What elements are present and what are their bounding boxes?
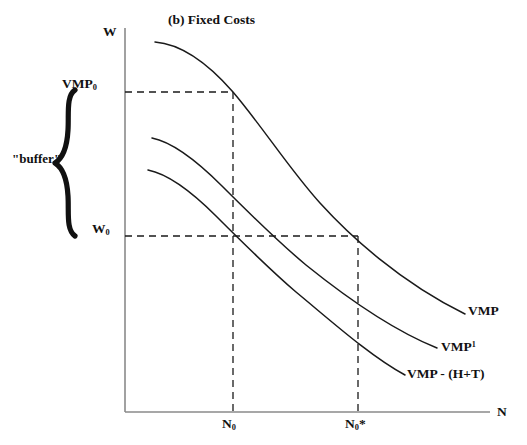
y-tick-vmp0-sub: 0 bbox=[93, 83, 97, 92]
curve-label-vmp-minus-ht: VMP - (H+T) bbox=[407, 367, 484, 381]
x-tick-n0-sub: 0 bbox=[232, 423, 236, 432]
x-tick-n0star-suffix: * bbox=[359, 416, 366, 431]
x-tick-n0-main: N bbox=[222, 416, 232, 431]
y-tick-w0-main: W bbox=[92, 221, 106, 236]
x-tick-label-n0-star: N0* bbox=[345, 417, 366, 431]
curve-vmp-minus-ht bbox=[148, 170, 405, 375]
y-tick-w0-sub: 0 bbox=[106, 228, 110, 237]
curve-label-vmp-prime: VMP1 bbox=[441, 340, 476, 354]
economics-figure: (b) Fixed Costs W N VMP0 W0 N0 N0* "buff… bbox=[0, 0, 527, 445]
y-tick-vmp0-main: VMP bbox=[62, 76, 93, 91]
x-tick-label-n0: N0 bbox=[222, 417, 236, 431]
buffer-annotation-label: "buffer" bbox=[12, 152, 61, 165]
curve-vmp-prime bbox=[152, 138, 437, 348]
x-tick-n0star-sub: 0 bbox=[355, 423, 359, 432]
curve-vmp bbox=[155, 42, 465, 314]
x-tick-n0star-main: N bbox=[345, 416, 355, 431]
chart-title: (b) Fixed Costs bbox=[168, 13, 255, 27]
y-tick-label-vmp0: VMP0 bbox=[62, 77, 97, 91]
curve-label-vmp: VMP bbox=[468, 304, 499, 318]
x-axis-label: N bbox=[497, 405, 507, 419]
curve-label-vmp-prime-sup: 1 bbox=[472, 340, 476, 349]
curve-label-vmp-prime-main: VMP bbox=[441, 339, 472, 354]
y-tick-label-w0: W0 bbox=[92, 222, 110, 236]
y-axis-label: W bbox=[103, 25, 117, 39]
